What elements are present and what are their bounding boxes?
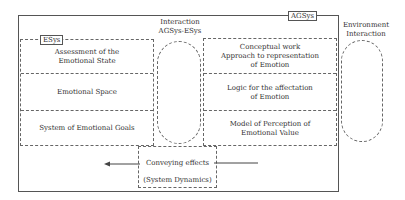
interaction-line1: Interaction (150, 18, 210, 27)
environment-line1: Environment (336, 21, 396, 30)
interaction-pill (157, 41, 201, 144)
conveying-box: Conveying effects (System Dynamics) (138, 146, 217, 188)
conceptual-box: Conceptual work Approach to representati… (203, 38, 337, 146)
environment-line2: Interaction (336, 30, 396, 39)
conceptual-row-text: Emotional Value (230, 129, 311, 138)
conveying-line1: Conveying effects (139, 159, 216, 168)
conceptual-row-text: Logic for the affectation (227, 84, 313, 93)
esys-row-emotional-space: Emotional Space (21, 73, 153, 111)
agsys-label: AGSys (288, 11, 317, 21)
interaction-line2: AGSys-ESys (150, 27, 210, 36)
conceptual-row-perception: Model of Perception of Emotional Value (204, 110, 336, 146)
environment-pill (341, 40, 383, 142)
conceptual-row-text: of Emotion (221, 61, 319, 70)
esys-label: ESys (40, 35, 63, 45)
esys-row-goals: System of Emotional Goals (21, 110, 153, 146)
connector-line (214, 159, 260, 169)
conceptual-row-logic: Logic for the affectation of Emotion (204, 73, 336, 111)
conceptual-row-text: Model of Perception of (230, 120, 311, 129)
interaction-title: Interaction AGSys-ESys (150, 18, 210, 36)
conceptual-row-text: Approach to representation (221, 52, 319, 61)
conveying-line2: (System Dynamics) (139, 176, 216, 185)
conceptual-row-representation: Conceptual work Approach to representati… (204, 39, 336, 73)
esys-row-text: System of Emotional Goals (39, 124, 134, 133)
conceptual-row-text: of Emotion (227, 93, 313, 102)
esys-row-text: Emotional State (55, 57, 119, 66)
arrow-left-icon (100, 159, 142, 169)
esys-row-text: Emotional Space (57, 88, 117, 97)
conceptual-row-text: Conceptual work (221, 43, 319, 52)
esys-row-text: Assessment of the (55, 48, 119, 57)
environment-title: Environment Interaction (336, 21, 396, 39)
esys-box: Assessment of the Emotional State Emotio… (20, 39, 154, 146)
